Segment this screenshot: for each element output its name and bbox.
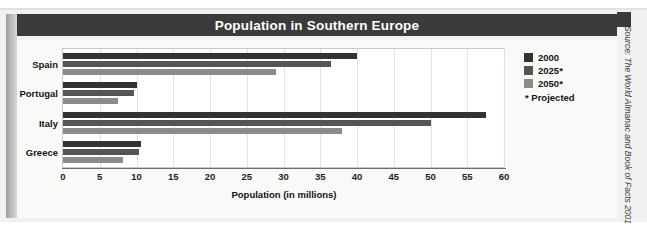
bar-portugal-2050 (63, 98, 118, 104)
bar-greece-2000 (63, 141, 141, 147)
x-tick-label: 40 (352, 171, 363, 182)
x-tick-label: 35 (315, 171, 326, 182)
x-tick-label: 30 (278, 171, 289, 182)
legend-swatch-icon (524, 79, 533, 88)
bar-portugal-2025 (63, 90, 134, 96)
legend-swatch-icon (524, 66, 533, 75)
bar-portugal-2000 (63, 82, 137, 88)
bar-spain-2050 (63, 69, 276, 75)
legend-label: 2025* (538, 65, 563, 76)
chart-screenshot: Population in Southern Europe SpainPortu… (0, 0, 647, 233)
bar-spain-2025 (63, 61, 331, 67)
x-tick-label: 50 (425, 171, 436, 182)
category-label-italy: Italy (39, 117, 58, 128)
x-axis-line (62, 168, 506, 169)
category-label-portugal: Portugal (19, 88, 58, 99)
page-title: Population in Southern Europe (215, 18, 420, 33)
legend-item-2050: 2050* (524, 78, 616, 89)
legend-swatch-icon (524, 53, 533, 62)
source-note: Source: The World Almanac and Book of Fa… (623, 26, 633, 224)
category-label-spain: Spain (32, 58, 58, 69)
gridline (504, 49, 505, 167)
bar-greece-2050 (63, 157, 123, 163)
bar-spain-2000 (63, 53, 357, 59)
x-axis-title: Population (in millions) (62, 189, 506, 200)
bar-italy-2000 (63, 112, 486, 118)
x-tick-label: 0 (60, 171, 65, 182)
bar-greece-2025 (63, 149, 139, 155)
chart-legend: 20002025*2050** Projected (524, 52, 616, 103)
x-tick-label: 55 (462, 171, 473, 182)
legend-label: 2000 (538, 52, 559, 63)
source-note-wrapper: Source: The World Almanac and Book of Fa… (618, 30, 638, 220)
category-label-greece: Greece (26, 147, 58, 158)
x-axis-tick-labels: 051015202530354045505560 (0, 171, 647, 185)
bar-italy-2025 (63, 120, 431, 126)
x-tick-label: 15 (168, 171, 179, 182)
x-tick-label: 25 (241, 171, 252, 182)
chart-title-bar: Population in Southern Europe (17, 14, 617, 36)
x-tick-label: 5 (97, 171, 102, 182)
legend-item-2000: 2000 (524, 52, 616, 63)
bar-italy-2050 (63, 128, 342, 134)
x-tick-label: 10 (131, 171, 142, 182)
x-tick-label: 60 (499, 171, 510, 182)
x-tick-label: 45 (388, 171, 399, 182)
corner-accent-block (617, 12, 631, 27)
legend-label: 2050* (538, 78, 563, 89)
x-tick-label: 20 (205, 171, 216, 182)
legend-item-2025: 2025* (524, 65, 616, 76)
legend-footnote: * Projected (525, 92, 616, 103)
bar-series-group (63, 49, 504, 167)
category-axis-labels: SpainPortugalItalyGreece (0, 0, 58, 233)
